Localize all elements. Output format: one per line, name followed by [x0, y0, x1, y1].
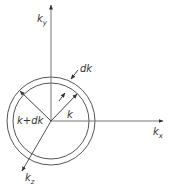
- kz-label: kz: [25, 172, 35, 185]
- k-radius-arrow: [51, 94, 77, 121]
- k-space-shell-diagram: ky kx kz dk k k+dk: [0, 0, 170, 185]
- k-label: k: [67, 109, 74, 120]
- kz-axis: [22, 121, 51, 171]
- dk-arrow-inner: [59, 93, 65, 101]
- ky-label: ky: [37, 13, 48, 27]
- dk-label: dk: [80, 63, 93, 74]
- k-plus-dk-label: k+dk: [17, 115, 45, 126]
- dk-arrow-outer: [71, 70, 78, 79]
- kx-label: kx: [153, 126, 164, 140]
